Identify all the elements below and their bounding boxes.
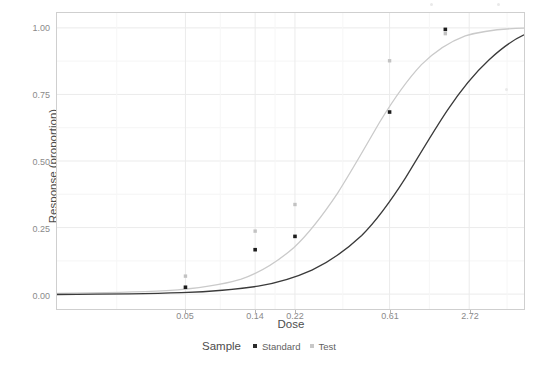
plot-panel bbox=[56, 12, 525, 310]
grid-horizontal-major bbox=[57, 28, 524, 294]
y-tick-label-0: 0.00 bbox=[18, 292, 50, 301]
data-point-test bbox=[293, 203, 296, 206]
dose-response-chart: Response (proportion) 0.00 0.25 0.50 0.7… bbox=[0, 0, 538, 373]
artifact-speck bbox=[430, 3, 433, 6]
legend: Sample Standard Test bbox=[0, 340, 538, 352]
y-tick-label-2: 0.50 bbox=[18, 158, 50, 167]
y-tick-label-3: 0.75 bbox=[18, 91, 50, 100]
artifact-speck bbox=[497, 3, 500, 6]
plot-canvas bbox=[57, 13, 524, 309]
legend-title: Sample bbox=[202, 340, 241, 352]
y-tick-label-1: 0.25 bbox=[18, 225, 50, 234]
legend-marker-test-icon bbox=[310, 344, 314, 348]
data-point-standard bbox=[184, 285, 188, 289]
legend-marker-standard-icon bbox=[253, 344, 257, 348]
x-axis-title: Dose bbox=[56, 318, 526, 330]
data-point-standard bbox=[388, 110, 392, 114]
legend-label-standard: Standard bbox=[262, 341, 301, 352]
data-point-standard bbox=[444, 28, 448, 32]
data-point-test bbox=[253, 229, 256, 232]
data-point-test bbox=[444, 32, 447, 35]
fit-curve-standard bbox=[57, 35, 524, 295]
artifact-speck bbox=[505, 88, 508, 91]
legend-key-test[interactable]: Test bbox=[310, 341, 336, 352]
data-point-standard bbox=[293, 235, 297, 239]
y-tick-label-4: 1.00 bbox=[18, 24, 50, 33]
data-point-test bbox=[184, 274, 187, 277]
data-points-test bbox=[184, 32, 447, 278]
legend-key-standard[interactable]: Standard bbox=[253, 341, 301, 352]
data-point-standard bbox=[253, 248, 257, 252]
legend-label-test: Test bbox=[319, 341, 336, 352]
y-axis-ticks: 0.00 0.25 0.50 0.75 1.00 bbox=[12, 0, 50, 373]
data-points-standard bbox=[184, 28, 447, 289]
data-point-test bbox=[388, 59, 391, 62]
